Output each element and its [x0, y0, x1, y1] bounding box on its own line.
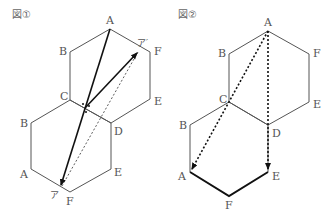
figure-2-top-hexagon	[229, 31, 309, 125]
f1-top-A: A	[105, 14, 115, 27]
f2-bot-A: A	[177, 170, 187, 183]
f1-bot-E: E	[114, 166, 122, 179]
f1-top-B: B	[59, 45, 67, 58]
f1-bot-F: F	[66, 195, 74, 208]
f2-top-F: F	[313, 47, 321, 60]
figure-2: 図② A B F C E D B A E F	[177, 9, 321, 212]
f2-bot-F: F	[225, 199, 233, 212]
f1-top-F: F	[154, 45, 162, 58]
figure-2-bold-path-A-F-E	[190, 172, 268, 196]
f2-bot-B: B	[179, 119, 187, 132]
figure-1-arrow-a-prime	[85, 53, 137, 108]
figure-1-title: 図①	[12, 9, 31, 20]
figure-1-dashed-line	[62, 52, 138, 186]
f1-bot-A: A	[19, 168, 29, 181]
figure-1: 図① A B F C E D B A E F ア ア′	[12, 9, 162, 208]
f2-bot-E: E	[272, 170, 280, 183]
f1-label-a-prime: ア′	[137, 38, 148, 48]
f1-top-D: D	[114, 125, 123, 138]
f2-top-D: D	[272, 127, 281, 140]
f2-top-E: E	[313, 98, 321, 111]
f1-top-E: E	[154, 95, 162, 108]
figure-2-dotted-arrow-to-A	[192, 31, 268, 169]
diagram-canvas: 図① A B F C E D B A E F ア ア′ 図② A B F C E…	[0, 0, 328, 216]
figure-2-title: 図②	[178, 9, 197, 20]
f1-label-a: ア	[50, 190, 59, 200]
figure-1-bottom-hexagon	[31, 100, 111, 192]
f1-top-C: C	[60, 90, 68, 103]
f2-top-B: B	[218, 47, 226, 60]
f1-bot-B: B	[20, 117, 28, 130]
f2-top-A: A	[263, 16, 273, 29]
f2-top-C: C	[219, 93, 227, 106]
figure-2-bottom-hexagon-thin	[190, 102, 268, 172]
